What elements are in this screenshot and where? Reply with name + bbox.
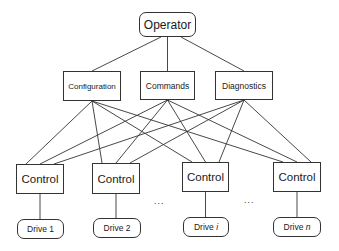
drive-2-node-label: Drive 2 <box>104 223 131 233</box>
ellipsis-marker: ... <box>244 195 255 205</box>
operator-node: Operator <box>139 12 196 37</box>
control-n-node-label: Control <box>278 171 315 183</box>
operator-node-label: Operator <box>144 18 191 32</box>
system-hierarchy-diagram: OperatorConfigurationCommandsDiagnostics… <box>0 0 339 251</box>
connector-line <box>219 100 244 162</box>
commands-node-label: Commands <box>146 81 189 91</box>
drive-n-node-label: Drive n <box>284 222 311 232</box>
control-i-node-label: Control <box>187 171 224 183</box>
connector-line <box>181 37 244 71</box>
connector-lines <box>0 0 339 251</box>
connector-line <box>92 37 161 71</box>
drive-2-node: Drive 2 <box>93 218 141 238</box>
connector-line <box>116 100 168 163</box>
control-1-node: Control <box>16 164 64 194</box>
control-i-node: Control <box>182 162 229 192</box>
control-n-node: Control <box>273 162 321 192</box>
drive-i-node-label: Drive i <box>194 222 218 232</box>
connector-line <box>92 101 102 163</box>
control-2-node-label: Control <box>97 173 134 185</box>
diagnostics-node-label: Diagnostics <box>222 81 266 91</box>
drive-1-node-label: Drive 1 <box>27 224 54 234</box>
drive-1-node: Drive 1 <box>17 219 64 239</box>
diagnostics-node: Diagnostics <box>215 71 273 100</box>
configuration-node: Configuration <box>63 71 121 101</box>
control-2-node: Control <box>92 163 140 194</box>
commands-node: Commands <box>140 71 195 100</box>
drive-n-node: Drive n <box>273 217 321 237</box>
control-1-node-label: Control <box>21 173 58 185</box>
configuration-node-label: Configuration <box>68 82 116 91</box>
ellipsis-marker: ... <box>154 196 165 206</box>
drive-i-node: Drive i <box>183 217 229 237</box>
